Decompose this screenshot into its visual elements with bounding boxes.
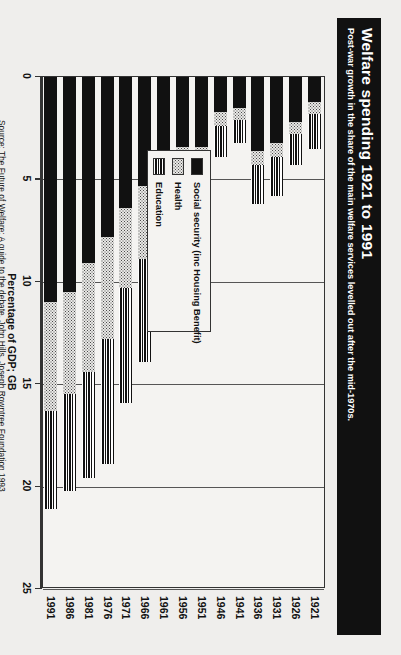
x-tick bbox=[35, 281, 42, 282]
bar-segment-health bbox=[119, 208, 132, 288]
bar-row bbox=[270, 77, 283, 589]
bar-segment-health bbox=[82, 263, 95, 372]
category-label-1986: 1986 bbox=[64, 596, 76, 619]
x-tick-label-25: 25 bbox=[21, 582, 33, 594]
bar-segment-health bbox=[289, 122, 302, 134]
bar-segment-health bbox=[308, 102, 321, 114]
category-label-1946: 1946 bbox=[215, 596, 227, 619]
bar-row bbox=[44, 77, 57, 589]
x-tick-label-20: 20 bbox=[21, 480, 33, 492]
bar-segment-health bbox=[63, 292, 76, 394]
rotated-figure-wrapper: Welfare spending 1921 to 1991 Post-war g… bbox=[0, 0, 401, 655]
bar-segment-education bbox=[214, 126, 227, 157]
x-tick bbox=[35, 383, 42, 384]
bar-segment-social bbox=[308, 77, 321, 102]
bar-segment-education bbox=[101, 339, 114, 464]
bar-row bbox=[308, 77, 321, 589]
bar-segment-education bbox=[119, 288, 132, 403]
category-label-1936: 1936 bbox=[252, 596, 264, 619]
bar-segment-education bbox=[233, 120, 246, 143]
source-note-wrapper: Source: The Future of Welfare: A guide t… bbox=[0, 120, 13, 492]
bar-row bbox=[119, 77, 132, 589]
x-tick bbox=[35, 76, 42, 77]
category-label-1926: 1926 bbox=[290, 596, 302, 619]
chart-title-banner: Welfare spending 1921 to 1991 Post-war g… bbox=[337, 18, 381, 635]
bar-row bbox=[251, 77, 264, 589]
bar-segment-social bbox=[82, 77, 95, 263]
bar-segment-health bbox=[233, 108, 246, 120]
x-tick bbox=[35, 178, 42, 179]
bar-segment-education bbox=[251, 165, 264, 204]
legend-item-health: Health bbox=[171, 158, 185, 324]
x-tick-label-15: 15 bbox=[21, 377, 33, 389]
bar-segment-social bbox=[270, 77, 283, 143]
bar-segment-social bbox=[119, 77, 132, 208]
bar-segment-education bbox=[308, 114, 321, 149]
x-tick-label-5: 5 bbox=[21, 175, 33, 181]
bar-row bbox=[82, 77, 95, 589]
category-label-1931: 1931 bbox=[271, 596, 283, 619]
bar-segment-education bbox=[270, 157, 283, 196]
bar-segment-social bbox=[289, 77, 302, 122]
bar-row bbox=[233, 77, 246, 589]
x-axis-line bbox=[40, 76, 42, 588]
chart-figure: Welfare spending 1921 to 1991 Post-war g… bbox=[0, 0, 401, 655]
bar-segment-social bbox=[101, 77, 114, 237]
bar-segment-health bbox=[270, 143, 283, 157]
bar-row bbox=[63, 77, 76, 589]
bar-segment-education bbox=[44, 411, 57, 509]
bar-segment-social bbox=[44, 77, 57, 302]
bar-segment-health bbox=[214, 112, 227, 126]
x-tick bbox=[35, 486, 42, 487]
bar-row bbox=[101, 77, 114, 589]
bar-segment-education bbox=[82, 372, 95, 478]
chart-legend: Social security (inc Housing Benefit) He… bbox=[147, 150, 211, 332]
bar-segment-social bbox=[233, 77, 246, 108]
bar-segment-social bbox=[195, 77, 208, 147]
bar-segment-health bbox=[101, 237, 114, 339]
category-label-1981: 1981 bbox=[83, 596, 95, 619]
legend-swatch-health-icon bbox=[172, 158, 184, 175]
category-label-1966: 1966 bbox=[139, 596, 151, 619]
bar-segment-social bbox=[176, 77, 189, 147]
category-label-1951: 1951 bbox=[196, 596, 208, 619]
bar-row bbox=[214, 77, 227, 589]
category-label-1956: 1956 bbox=[177, 596, 189, 619]
x-tick-label-10: 10 bbox=[21, 275, 33, 287]
bar-segment-education bbox=[63, 394, 76, 490]
category-label-1976: 1976 bbox=[102, 596, 114, 619]
bar-segment-education bbox=[289, 134, 302, 165]
legend-label-social: Social security (inc Housing Benefit) bbox=[192, 182, 202, 344]
x-tick-label-0: 0 bbox=[21, 73, 33, 79]
gridline bbox=[43, 589, 324, 590]
category-label-1921: 1921 bbox=[309, 596, 321, 619]
source-note: Source: The Future of Welfare: A guide t… bbox=[0, 120, 7, 492]
chart-subtitle: Post-war growth in the share of the main… bbox=[344, 28, 357, 625]
page-title: Welfare spending 1921 to 1991 bbox=[358, 28, 377, 625]
bar-segment-health bbox=[251, 151, 264, 165]
bar-segment-social bbox=[63, 77, 76, 292]
bar-segment-health bbox=[44, 302, 57, 411]
legend-swatch-education-icon bbox=[153, 158, 165, 175]
legend-item-social: Social security (inc Housing Benefit) bbox=[190, 158, 204, 324]
category-label-1971: 1971 bbox=[120, 596, 132, 619]
bar-row bbox=[289, 77, 302, 589]
category-label-1941: 1941 bbox=[234, 596, 246, 619]
category-label-1991: 1991 bbox=[45, 596, 57, 619]
legend-item-education: Education bbox=[152, 158, 166, 324]
bar-segment-social bbox=[251, 77, 264, 151]
x-tick bbox=[35, 588, 42, 589]
legend-label-health: Health bbox=[173, 182, 183, 210]
legend-label-education: Education bbox=[154, 182, 164, 227]
bar-segment-social bbox=[214, 77, 227, 112]
legend-swatch-social-icon bbox=[191, 158, 203, 175]
category-label-1961: 1961 bbox=[158, 596, 170, 619]
